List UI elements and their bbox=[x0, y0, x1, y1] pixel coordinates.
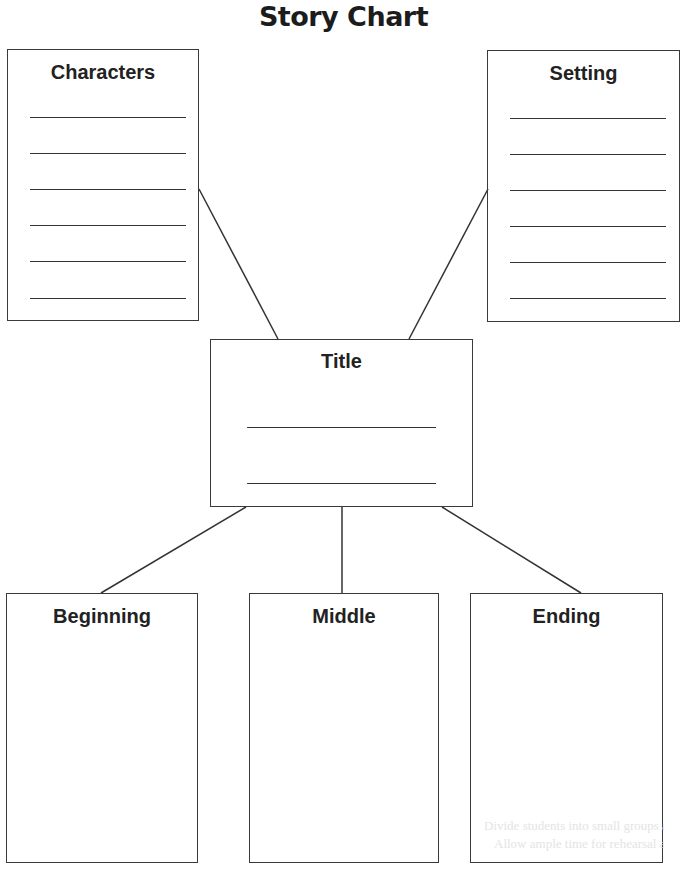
setting-write-line[interactable] bbox=[510, 298, 666, 299]
middle-box[interactable]: Middle bbox=[249, 593, 439, 863]
bleed-through-text-line: Divide students into small groups and ha… bbox=[484, 818, 664, 834]
setting-write-line[interactable] bbox=[510, 154, 666, 155]
connector-title-ending bbox=[442, 507, 581, 593]
connector-setting-title bbox=[409, 189, 488, 339]
beginning-label: Beginning bbox=[7, 605, 197, 627]
title-label: Title bbox=[211, 350, 472, 372]
beginning-box[interactable]: Beginning bbox=[6, 593, 198, 863]
setting-write-line[interactable] bbox=[510, 262, 666, 263]
middle-label: Middle bbox=[250, 605, 438, 627]
setting-label: Setting bbox=[488, 62, 679, 84]
title-write-line[interactable] bbox=[247, 483, 436, 484]
characters-write-line[interactable] bbox=[30, 117, 186, 118]
characters-write-line[interactable] bbox=[30, 298, 186, 299]
characters-write-line[interactable] bbox=[30, 225, 186, 226]
characters-write-line[interactable] bbox=[30, 153, 186, 154]
page-title: Story Chart bbox=[0, 0, 681, 34]
setting-write-line[interactable] bbox=[510, 190, 666, 191]
characters-label: Characters bbox=[8, 61, 198, 83]
characters-write-line[interactable] bbox=[30, 189, 186, 190]
ending-label: Ending bbox=[471, 605, 662, 627]
connector-characters-title bbox=[199, 189, 278, 339]
connector-title-beginning bbox=[101, 507, 246, 593]
setting-write-line[interactable] bbox=[510, 226, 666, 227]
setting-box: Setting bbox=[487, 50, 680, 322]
characters-write-line[interactable] bbox=[30, 261, 186, 262]
title-box: Title bbox=[210, 339, 473, 507]
setting-write-line[interactable] bbox=[510, 118, 666, 119]
characters-box: Characters bbox=[7, 49, 199, 321]
title-write-line[interactable] bbox=[247, 427, 436, 428]
bleed-through-text-line: Allow ample time for rehearsal and the bbox=[494, 836, 664, 852]
